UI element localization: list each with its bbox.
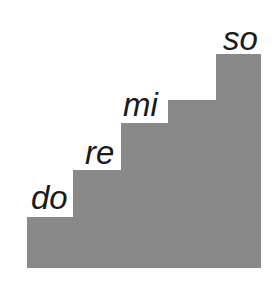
step-label-so: so [223,22,258,55]
step-label-do: do [31,181,68,214]
step-label-mi: mi [123,88,158,121]
step-label-re: re [85,136,114,169]
